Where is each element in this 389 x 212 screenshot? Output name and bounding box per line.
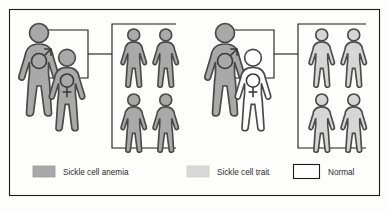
sickle-cell-inheritance-figure: Sickle cell anemia Sickle cell trait Nor… xyxy=(0,0,389,212)
legend-swatch-anemia xyxy=(33,166,55,177)
legend-label-normal: Normal xyxy=(328,168,355,177)
legend-label-anemia: Sickle cell anemia xyxy=(63,168,129,177)
legend-item-trait: Sickle cell trait xyxy=(187,166,270,177)
legend-swatch-normal xyxy=(294,165,320,179)
legend-item-anemia: Sickle cell anemia xyxy=(33,166,129,177)
legend-label-trait: Sickle cell trait xyxy=(217,168,270,177)
legend-swatch-trait xyxy=(187,166,209,177)
